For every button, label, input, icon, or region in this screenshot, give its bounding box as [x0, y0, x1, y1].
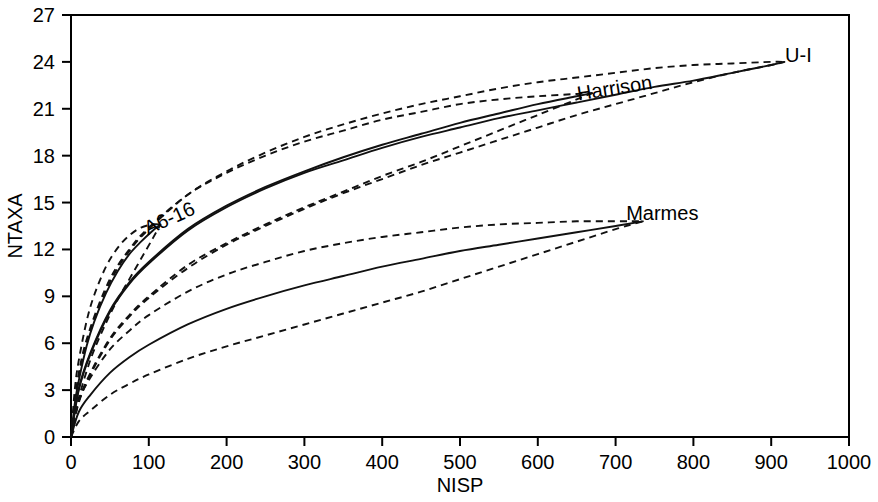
annotation-label: Marmes [626, 202, 698, 224]
curve-u-i [71, 62, 784, 437]
chart-canvas: 0369121518212427 01002003004005006007008… [0, 0, 878, 502]
y-tick-label: 15 [33, 192, 55, 214]
y-tick-label: 24 [33, 51, 55, 73]
y-tick-label: 0 [44, 426, 55, 448]
annotation-label: A6-16 [140, 197, 198, 239]
x-tick-label: 500 [443, 451, 476, 473]
data-curves [71, 62, 784, 437]
y-tick-label: 9 [44, 285, 55, 307]
curve-u-i-lower-ci [71, 62, 784, 437]
curve-a6-16-lower-ci [71, 224, 160, 437]
y-tick-label: 27 [33, 4, 55, 26]
curve-a6-16-upper-ci [71, 224, 160, 437]
axes [71, 15, 849, 437]
annotation-label: U-I [785, 44, 812, 66]
x-tick-label: 200 [210, 451, 243, 473]
rarefaction-chart-figure: 0369121518212427 01002003004005006007008… [0, 0, 878, 502]
y-tick-label: 12 [33, 238, 55, 260]
x-tick-label: 600 [521, 451, 554, 473]
y-tick-label: 3 [44, 379, 55, 401]
curve-u-i-upper-ci [71, 62, 784, 437]
x-tick-label: 800 [677, 451, 710, 473]
curve-harrison-lower-ci [71, 93, 592, 437]
curve-a6-16 [71, 224, 160, 437]
y-axis-ticks: 0369121518212427 [33, 4, 71, 448]
x-tick-label: 1000 [827, 451, 872, 473]
x-tick-label: 400 [366, 451, 399, 473]
x-tick-label: 900 [755, 451, 788, 473]
plot-frame [71, 15, 849, 437]
curve-harrison-upper-ci [71, 93, 592, 437]
x-tick-label: 700 [599, 451, 632, 473]
series-annotations: U-IHarrisonA6-16Marmes [140, 44, 811, 239]
y-axis-title: NTAXA [4, 193, 26, 259]
x-axis-ticks: 01002003004005006007008009001000 [65, 437, 871, 473]
curve-harrison [71, 93, 592, 437]
x-tick-label: 0 [65, 451, 76, 473]
y-tick-label: 6 [44, 332, 55, 354]
x-tick-label: 300 [288, 451, 321, 473]
y-tick-label: 21 [33, 98, 55, 120]
y-tick-label: 18 [33, 145, 55, 167]
x-axis-title: NISP [437, 474, 484, 496]
x-tick-label: 100 [132, 451, 165, 473]
